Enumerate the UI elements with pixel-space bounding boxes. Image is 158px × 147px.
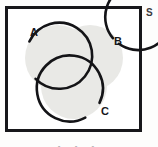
set-label-b: B bbox=[114, 35, 122, 47]
caption-fragment: - - - bbox=[0, 141, 158, 147]
set-label-a: A bbox=[30, 26, 38, 38]
venn-diagram-figure: A B C S - - - bbox=[0, 0, 158, 147]
set-label-c: C bbox=[101, 105, 109, 117]
universal-set-label: S bbox=[146, 7, 153, 18]
venn-diagram-canvas: A B C S bbox=[0, 0, 158, 147]
